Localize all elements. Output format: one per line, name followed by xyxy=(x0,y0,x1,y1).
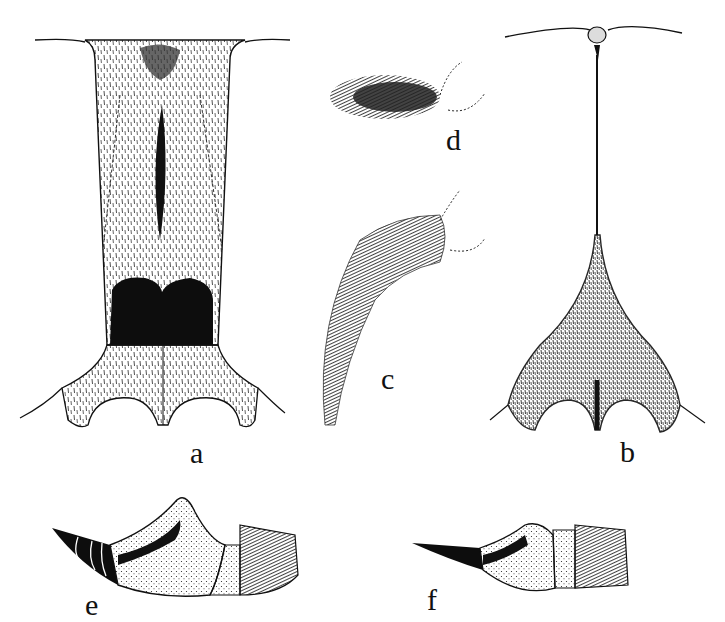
panel-label-b: b xyxy=(620,437,635,467)
panel-f-drawing xyxy=(412,524,628,591)
panel-e-drawing xyxy=(52,498,298,596)
panel-label-d: d xyxy=(446,125,461,155)
panel-d-drawing xyxy=(330,62,485,119)
panel-label-c: c xyxy=(381,364,394,394)
panel-label-a: a xyxy=(190,438,203,468)
figure-drawings xyxy=(0,0,725,622)
panel-label-f: f xyxy=(427,585,437,615)
panel-a-drawing xyxy=(20,39,290,426)
panel-label-e: e xyxy=(85,590,98,620)
panel-c-drawing xyxy=(323,190,485,425)
illustration-plate: a b c d e f xyxy=(0,0,725,622)
panel-b-drawing xyxy=(490,27,705,432)
